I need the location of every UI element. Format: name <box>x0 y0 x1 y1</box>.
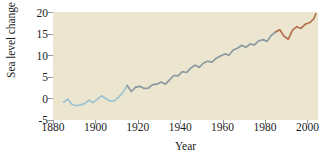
x-tick-label-1880: 1880 <box>33 122 73 134</box>
y-tick-label-10: 10 <box>8 51 48 63</box>
x-tick-label-1920: 1920 <box>118 122 158 134</box>
series-lines <box>53 12 318 120</box>
x-axis-label: Year <box>53 140 318 152</box>
line-mid <box>127 32 275 92</box>
x-tick-label-2000: 2000 <box>287 122 327 134</box>
x-tick-label-1960: 1960 <box>203 122 243 134</box>
y-tick-label-15: 15 <box>8 29 48 41</box>
y-tick-label-5: 5 <box>8 72 48 84</box>
x-tick-label-1940: 1940 <box>160 122 200 134</box>
sea-level-chart: Sea level change (cm) 20 15 10 5 0 -5 18… <box>0 0 330 157</box>
x-tick-label-1980: 1980 <box>245 122 285 134</box>
y-tick-label-0: 0 <box>8 94 48 106</box>
x-tick-label-1900: 1900 <box>75 122 115 134</box>
line-early <box>64 85 128 105</box>
line-recent <box>276 14 316 39</box>
y-tick-label-20: 20 <box>8 8 48 20</box>
